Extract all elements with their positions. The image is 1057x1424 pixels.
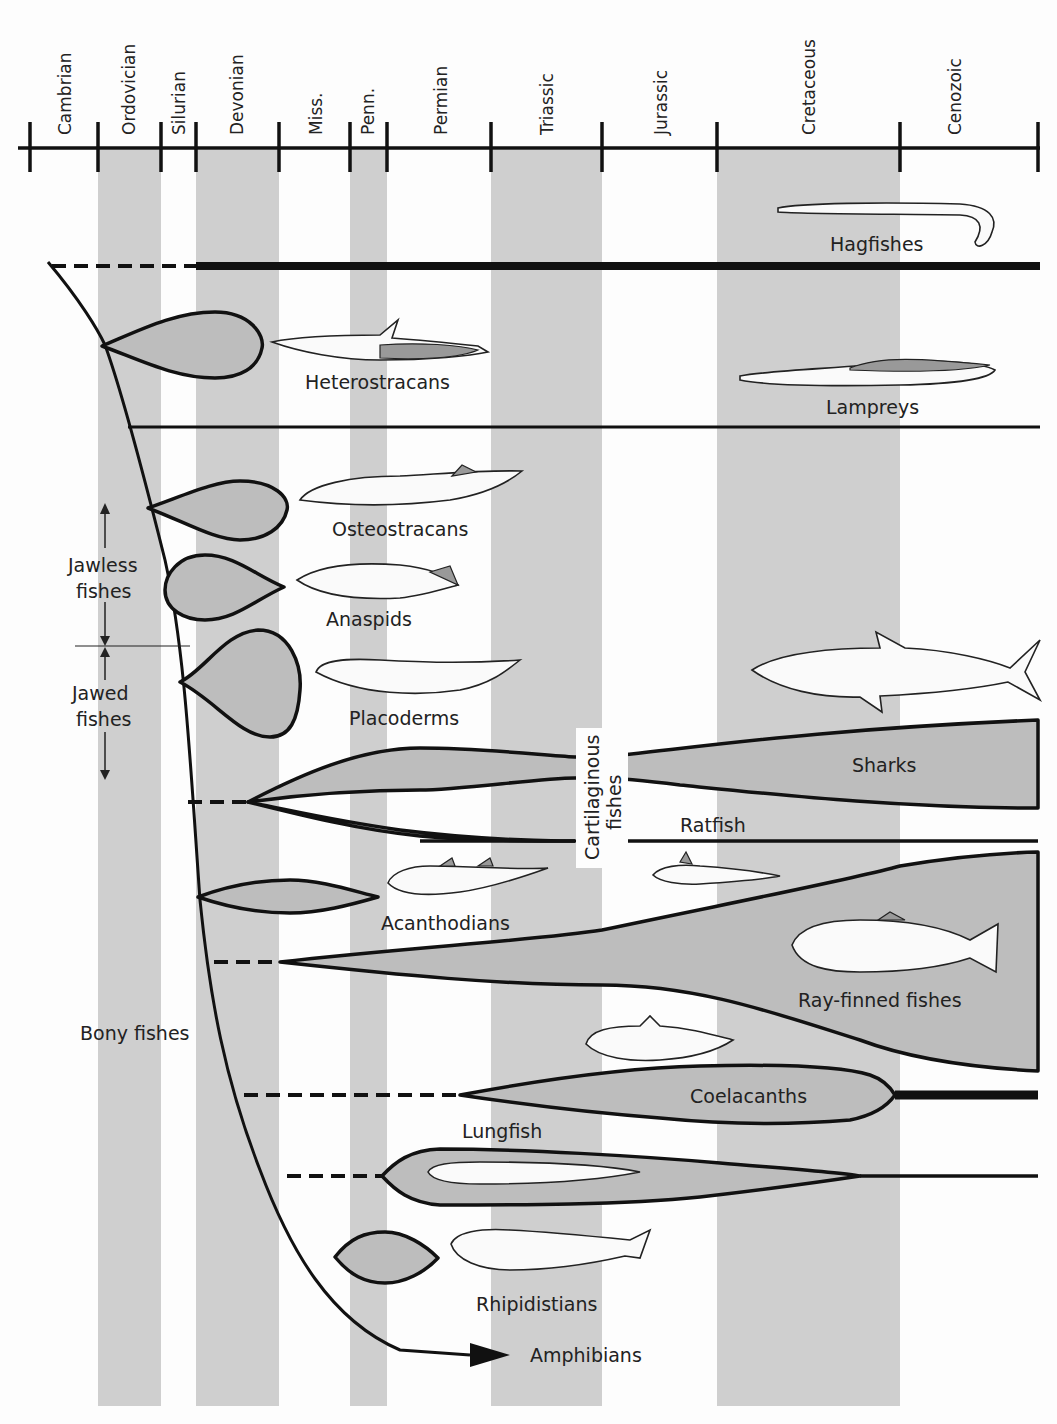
placoderm-illustration [316, 659, 520, 693]
label-amphibians: Amphibians [530, 1344, 642, 1366]
period-label-cambrian: Cambrian [55, 52, 75, 135]
label-sharks: Sharks [852, 754, 916, 776]
label-jawed-line1: Jawed [71, 682, 129, 704]
period-label-cretaceous: Cretaceous [799, 39, 819, 135]
label-ratfish: Ratfish [680, 814, 746, 836]
label-jawless-line1: Jawless [67, 554, 138, 576]
label-bony-fishes: Bony fishes [80, 1022, 189, 1044]
rhipidistian-illustration [451, 1230, 650, 1270]
label-osteostracans: Osteostracans [332, 518, 468, 540]
label-anaspids: Anaspids [326, 608, 412, 630]
osteostracans-clade [148, 481, 287, 540]
period-label-devonian: Devonian [227, 54, 247, 135]
period-label-permian: Permian [431, 66, 451, 135]
period-label-jurassic: Jurassic [651, 70, 671, 136]
period-label-mississippian: Miss. [306, 92, 326, 135]
label-acanthodians: Acanthodians [381, 912, 510, 934]
period-label-pennsylvanian: Penn. [358, 88, 378, 135]
label-cartilaginous-line2: fishes [603, 775, 625, 831]
period-label-triassic: Triassic [537, 73, 557, 136]
label-lampreys: Lampreys [826, 396, 919, 418]
period-label-silurian: Silurian [169, 71, 189, 135]
coelacanth-illustration [586, 1016, 733, 1060]
label-jawed-line2: fishes [76, 708, 132, 730]
label-heterostracans: Heterostracans [305, 371, 450, 393]
period-label-ordovician: Ordovician [119, 44, 139, 135]
label-rhipidistians: Rhipidistians [476, 1293, 597, 1315]
label-cartilaginous-line1: Cartilaginous [581, 735, 603, 860]
anaspid-illustration [297, 564, 458, 599]
label-coelacanths: Coelacanths [690, 1085, 807, 1107]
label-hagfishes: Hagfishes [830, 233, 924, 255]
label-jawless-line2: fishes [76, 580, 132, 602]
label-ray-finned-fishes: Ray-finned fishes [798, 989, 962, 1011]
label-lungfish: Lungfish [462, 1120, 542, 1142]
label-placoderms: Placoderms [349, 707, 459, 729]
osteostracan-illustration [300, 465, 522, 505]
fish-evolution-diagram: Cambrian Ordovician Silurian Devonian Mi… [0, 0, 1057, 1424]
period-label-cenozoic: Cenozoic [945, 58, 965, 135]
